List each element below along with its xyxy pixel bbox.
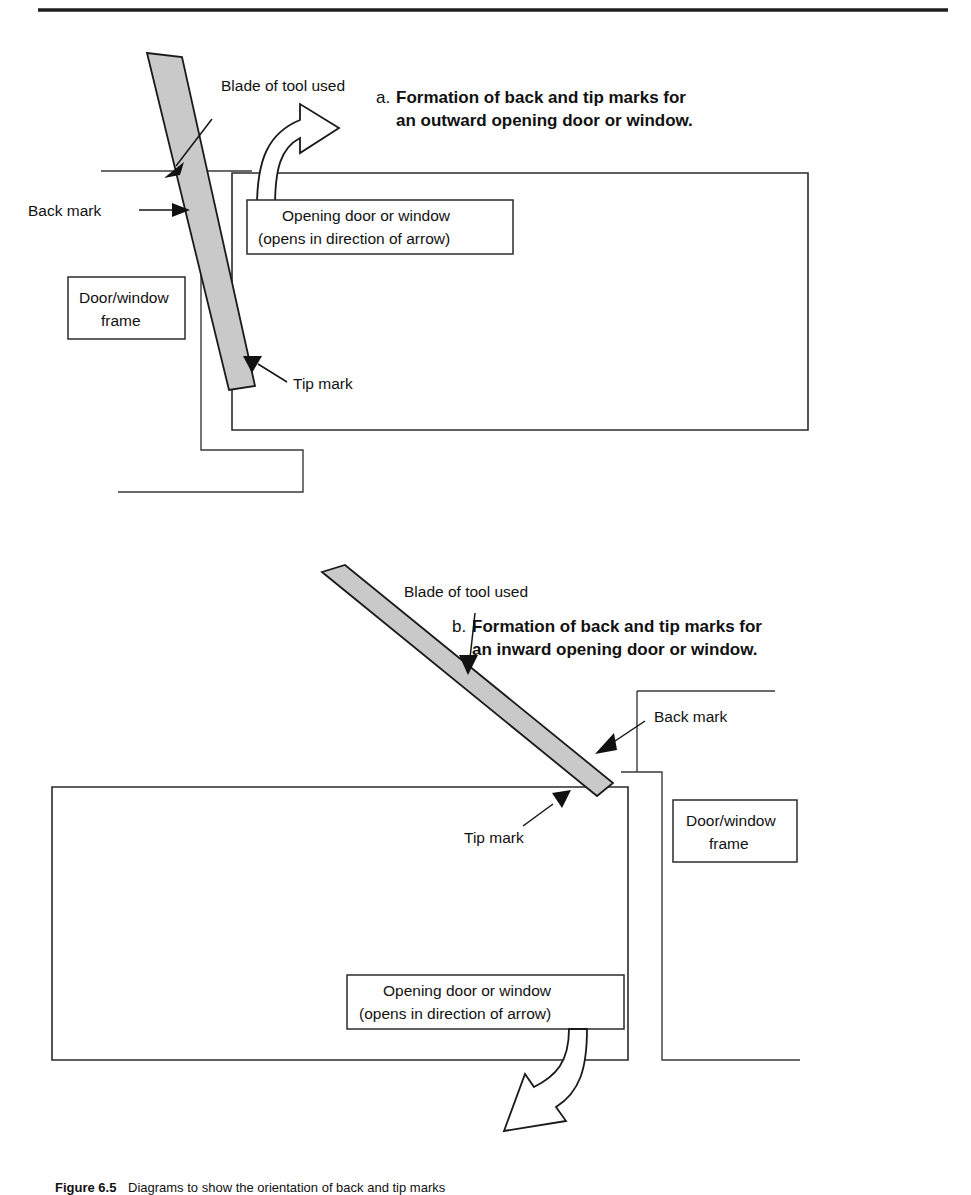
panel-a-frame-label-line1: Door/window	[79, 289, 169, 306]
panel-b-tip-mark-arrowhead	[552, 790, 571, 808]
panel-a-opening-label-line2: (opens in direction of arrow)	[258, 230, 450, 247]
panel-a-tip-mark-label: Tip mark	[293, 375, 353, 392]
panel-b-frame-label-line2: frame	[709, 835, 749, 852]
panel-b-tip-mark-leader-line	[523, 804, 553, 826]
panel-b-opening-direction-arrow	[504, 1029, 587, 1131]
panel-a-frame-label-line2: frame	[101, 312, 141, 329]
panel-b-frame-label-box	[673, 800, 797, 862]
panel-b-heading-line1: Formation of back and tip marks for	[472, 617, 762, 636]
panel-b-opening-label-line1: Opening door or window	[383, 982, 552, 999]
panel-b-back-mark-leader-line	[612, 721, 645, 743]
panel-b-heading-line2: an inward opening door or window.	[472, 640, 758, 659]
figure-canvas: a. Formation of back and tip marks for a…	[0, 0, 971, 1195]
panel-b-back-mark-label: Back mark	[654, 708, 727, 725]
panel-b-frame-label-line1: Door/window	[686, 812, 776, 829]
panel-a-blade-label: Blade of tool used	[221, 77, 345, 94]
caption-figure-number: Figure 6.5	[55, 1180, 116, 1195]
panel-a-frame-label-box	[68, 277, 185, 339]
panel-b-tip-mark-label: Tip mark	[464, 829, 524, 846]
panel-b-heading-prefix: b.	[452, 617, 466, 636]
panel-a-heading-line2: an outward opening door or window.	[396, 111, 693, 130]
figure-root: a. Formation of back and tip marks for a…	[0, 0, 971, 1195]
panel-b-blade-label: Blade of tool used	[404, 583, 528, 600]
panel-a-heading-prefix: a.	[376, 88, 390, 107]
panel-b-opening-label-line2: (opens in direction of arrow)	[359, 1005, 551, 1022]
caption-text: Diagrams to show the orientation of back…	[128, 1180, 446, 1195]
panel-a-opening-label-line1: Opening door or window	[282, 207, 451, 224]
panel-b-back-mark-arrowhead	[595, 733, 617, 754]
panel-a-tip-mark-leader-line	[258, 364, 287, 382]
panel-a-back-mark-label: Back mark	[28, 202, 101, 219]
panel-a-heading-line1: Formation of back and tip marks for	[396, 88, 686, 107]
